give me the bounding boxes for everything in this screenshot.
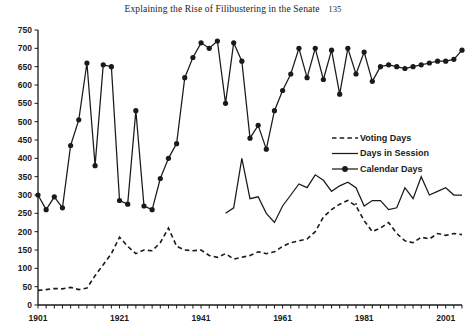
data-point-calendar-days bbox=[133, 108, 138, 113]
y-tick-label: 300 bbox=[18, 190, 32, 200]
data-point-calendar-days bbox=[101, 62, 106, 67]
data-point-calendar-days bbox=[207, 46, 212, 51]
data-point-calendar-days bbox=[141, 203, 146, 208]
data-point-calendar-days bbox=[109, 64, 114, 69]
x-tick-label: 1961 bbox=[273, 313, 292, 323]
data-point-calendar-days bbox=[313, 46, 318, 51]
data-point-calendar-days bbox=[158, 176, 163, 181]
y-tick-label: 500 bbox=[18, 117, 32, 127]
y-tick-label: 250 bbox=[18, 208, 32, 218]
data-point-calendar-days bbox=[443, 59, 448, 64]
data-point-calendar-days bbox=[394, 64, 399, 69]
y-axis-labels: 0501001502002503003504004505005506006507… bbox=[18, 25, 32, 310]
line-chart: 0501001502002503003504004505005506006507… bbox=[0, 18, 466, 334]
series-markers-calendar-days bbox=[35, 38, 464, 212]
data-point-calendar-days bbox=[52, 194, 57, 199]
y-tick-label: 100 bbox=[18, 263, 32, 273]
data-point-calendar-days bbox=[264, 147, 269, 152]
data-point-calendar-days bbox=[353, 71, 358, 76]
running-head: Explaining the Rise of Filibustering in … bbox=[0, 4, 466, 14]
data-point-calendar-days bbox=[370, 79, 375, 84]
data-point-calendar-days bbox=[92, 163, 97, 168]
y-tick-label: 350 bbox=[18, 172, 32, 182]
data-point-calendar-days bbox=[68, 143, 73, 148]
data-point-calendar-days bbox=[402, 66, 407, 71]
data-point-calendar-days bbox=[280, 88, 285, 93]
data-point-calendar-days bbox=[231, 40, 236, 45]
legend-label: Calendar Days bbox=[360, 164, 423, 174]
y-tick-label: 200 bbox=[18, 227, 32, 237]
data-point-calendar-days bbox=[35, 192, 40, 197]
y-tick-label: 400 bbox=[18, 153, 32, 163]
y-tick-label: 450 bbox=[18, 135, 32, 145]
data-point-calendar-days bbox=[296, 46, 301, 51]
y-tick-label: 750 bbox=[18, 25, 32, 35]
series-line-voting-days bbox=[38, 201, 462, 291]
data-point-calendar-days bbox=[174, 141, 179, 146]
x-tick-label: 1941 bbox=[192, 313, 211, 323]
data-point-calendar-days bbox=[337, 92, 342, 97]
data-point-calendar-days bbox=[459, 48, 464, 53]
x-tick-label: 2001 bbox=[436, 313, 455, 323]
data-point-calendar-days bbox=[329, 48, 334, 53]
data-point-calendar-days bbox=[288, 71, 293, 76]
y-tick-label: 0 bbox=[27, 300, 32, 310]
x-tick-label: 1921 bbox=[110, 313, 129, 323]
data-point-calendar-days bbox=[190, 55, 195, 60]
data-point-calendar-days bbox=[223, 101, 228, 106]
data-point-calendar-days bbox=[272, 108, 277, 113]
data-point-calendar-days bbox=[60, 205, 65, 210]
data-point-calendar-days bbox=[198, 40, 203, 45]
y-tick-label: 700 bbox=[18, 43, 32, 53]
page-folio: 135 bbox=[329, 5, 342, 14]
data-point-calendar-days bbox=[451, 57, 456, 62]
data-point-calendar-days bbox=[150, 207, 155, 212]
y-tick-label: 550 bbox=[18, 98, 32, 108]
y-tick-label: 50 bbox=[23, 282, 33, 292]
chart-legend: Voting DaysDays in SessionCalendar Days bbox=[332, 133, 429, 174]
data-point-calendar-days bbox=[166, 156, 171, 161]
data-point-calendar-days bbox=[378, 64, 383, 69]
y-tick-label: 650 bbox=[18, 62, 32, 72]
legend-label: Days in Session bbox=[360, 148, 429, 158]
legend-label: Voting Days bbox=[360, 133, 411, 143]
data-point-calendar-days bbox=[215, 38, 220, 43]
data-point-calendar-days bbox=[427, 60, 432, 65]
data-point-calendar-days bbox=[419, 62, 424, 67]
stray-speck bbox=[355, 203, 357, 205]
data-point-calendar-days bbox=[247, 136, 252, 141]
data-point-calendar-days bbox=[304, 75, 309, 80]
data-point-calendar-days bbox=[84, 60, 89, 65]
x-tick-label: 1901 bbox=[29, 313, 48, 323]
data-point-calendar-days bbox=[44, 207, 49, 212]
y-tick-label: 600 bbox=[18, 80, 32, 90]
data-point-calendar-days bbox=[239, 59, 244, 64]
data-point-calendar-days bbox=[362, 49, 367, 54]
data-point-calendar-days bbox=[410, 64, 415, 69]
data-point-calendar-days bbox=[76, 117, 81, 122]
y-tick-label: 150 bbox=[18, 245, 32, 255]
data-point-calendar-days bbox=[321, 77, 326, 82]
data-point-calendar-days bbox=[345, 46, 350, 51]
x-tick-label: 1981 bbox=[355, 313, 374, 323]
running-head-title: Explaining the Rise of Filibustering in … bbox=[124, 4, 319, 14]
data-point-calendar-days bbox=[386, 62, 391, 67]
data-point-calendar-days bbox=[182, 75, 187, 80]
x-axis-labels: 190119211941196119812001 bbox=[29, 313, 456, 323]
data-point-calendar-days bbox=[125, 202, 130, 207]
data-point-calendar-days bbox=[435, 59, 440, 64]
data-point-calendar-days bbox=[256, 123, 261, 128]
chart-canvas: 0501001502002503003504004505005506006507… bbox=[0, 18, 466, 334]
data-point-calendar-days bbox=[117, 198, 122, 203]
